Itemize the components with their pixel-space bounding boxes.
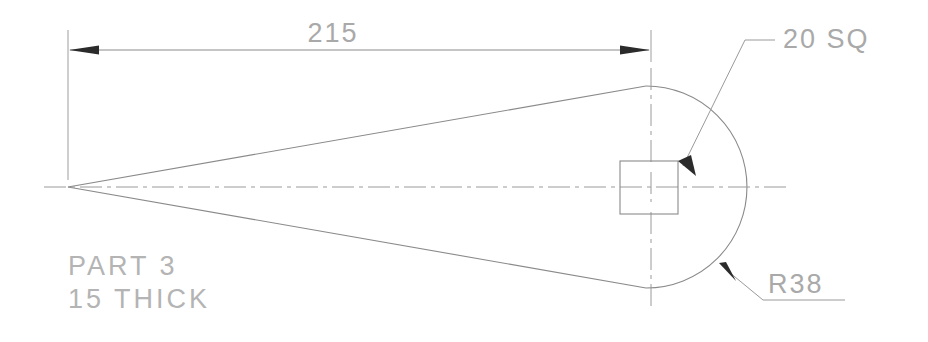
drawing-canvas: 215 <box>0 0 928 342</box>
part-note-line2: 15 THICK <box>68 284 210 314</box>
tangent-line-upper <box>68 86 646 187</box>
note-label-r38: R38 <box>768 269 824 299</box>
dimension-value-215: 215 <box>307 18 358 48</box>
technical-drawing-svg: 215 <box>0 0 928 342</box>
leader-line-20sq-diagonal <box>683 40 745 166</box>
part-note-line1: PART 3 <box>68 251 178 281</box>
dimension-215-group: 215 <box>68 18 651 180</box>
leader-r38-group: R38 <box>719 262 845 300</box>
arrowhead-left-icon <box>69 46 99 55</box>
part-notes-group: PART 3 15 THICK <box>68 251 210 314</box>
arrowhead-20sq-icon <box>678 155 696 176</box>
leader-20sq-group: 20 SQ <box>678 24 870 176</box>
arrowhead-right-icon <box>620 46 650 55</box>
note-label-20sq: 20 SQ <box>783 24 870 54</box>
arrowhead-r38-icon <box>719 262 736 281</box>
leader-line-r38-diagonal <box>729 272 763 300</box>
